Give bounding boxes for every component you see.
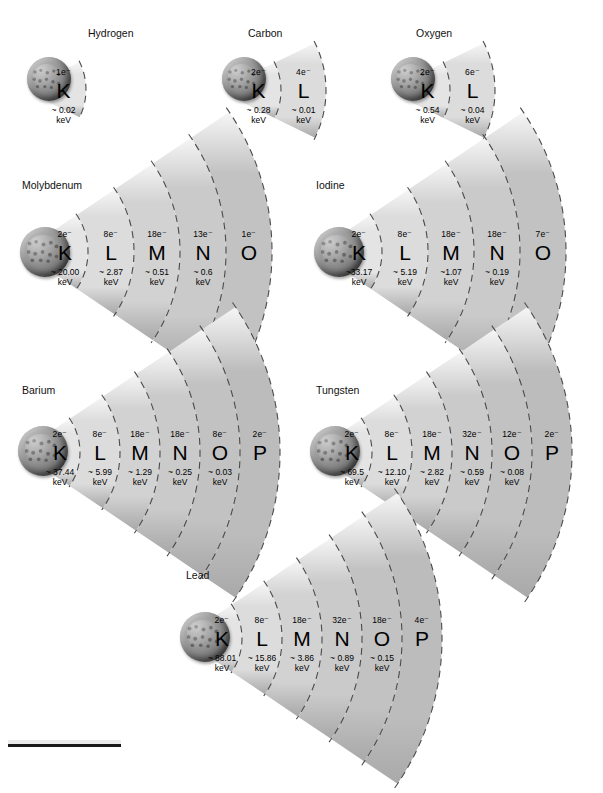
electron-count-K: 2e⁻: [239, 68, 279, 77]
shell-letter-M: M: [282, 628, 322, 649]
shell-letter-M: M: [137, 242, 177, 263]
electron-count-O: 8e⁻: [200, 430, 240, 439]
shell-letter-L: L: [372, 442, 412, 463]
electron-count-N: 18e⁻: [160, 430, 200, 439]
shell-letter-N: N: [477, 242, 517, 263]
electron-count-O: 7e⁻: [523, 230, 563, 239]
electron-count-K: 2e⁻: [40, 430, 80, 439]
shell-letter-L: L: [385, 242, 425, 263]
electron-count-M: 18e⁻: [412, 430, 452, 439]
footer-rule: [8, 744, 121, 747]
electron-count-K: 2e⁻: [408, 68, 448, 77]
shell-letter-O: O: [229, 242, 269, 263]
shell-letter-M: M: [412, 442, 452, 463]
shell-letter-O: O: [492, 442, 532, 463]
electron-count-K: 2e⁻: [202, 616, 242, 625]
electron-count-O: 1e⁻: [229, 230, 269, 239]
electron-count-P: 2e⁻: [240, 430, 280, 439]
shell-letter-O: O: [362, 628, 402, 649]
electron-count-N: 18e⁻: [477, 230, 517, 239]
binding-energy-unit: keV: [358, 664, 406, 674]
electron-count-L: 8e⁻: [385, 230, 425, 239]
electron-count-M: 18e⁻: [137, 230, 177, 239]
shell-letter-K: K: [40, 442, 80, 463]
electron-count-P: 2e⁻: [532, 430, 572, 439]
electron-count-M: 18e⁻: [282, 616, 322, 625]
shell-letter-N: N: [183, 242, 223, 263]
binding-energy-unit: keV: [488, 478, 536, 488]
electron-count-L: 6e⁻: [453, 68, 493, 77]
shell-letter-M: M: [120, 442, 160, 463]
binding-energy-O: ~ 0.15keV: [358, 654, 406, 674]
electron-count-L: 4e⁻: [284, 68, 324, 77]
electron-count-N: 13e⁻: [183, 230, 223, 239]
electron-count-K: 2e⁻: [332, 430, 372, 439]
shell-letter-P: P: [532, 442, 572, 463]
electron-count-K: 2e⁻: [45, 230, 85, 239]
shell-letter-P: P: [402, 628, 442, 649]
shell-letter-O: O: [200, 442, 240, 463]
electron-count-L: 8e⁻: [80, 430, 120, 439]
shell-letter-M: M: [431, 242, 471, 263]
electron-count-M: 18e⁻: [431, 230, 471, 239]
shell-letter-L: L: [242, 628, 282, 649]
shell-letter-K: K: [332, 442, 372, 463]
electron-count-K: 1e⁻: [44, 68, 84, 77]
electron-count-O: 12e⁻: [492, 430, 532, 439]
shell-letter-K: K: [45, 242, 85, 263]
shell-letter-L: L: [91, 242, 131, 263]
electron-count-L: 8e⁻: [242, 616, 282, 625]
electron-count-N: 32e⁻: [322, 616, 362, 625]
electron-count-P: 4e⁻: [402, 616, 442, 625]
electron-count-N: 32e⁻: [452, 430, 492, 439]
electron-count-L: 8e⁻: [372, 430, 412, 439]
shell-letter-P: P: [240, 442, 280, 463]
electron-count-M: 18e⁻: [120, 430, 160, 439]
shell-letter-N: N: [452, 442, 492, 463]
binding-energy-O: ~ 0.08keV: [488, 468, 536, 488]
electron-count-O: 18e⁻: [362, 616, 402, 625]
shell-letter-K: K: [339, 242, 379, 263]
shell-letter-N: N: [160, 442, 200, 463]
shell-letter-O: O: [523, 242, 563, 263]
shell-letter-K: K: [202, 628, 242, 649]
shell-letter-L: L: [80, 442, 120, 463]
shell-letter-N: N: [322, 628, 362, 649]
electron-count-K: 2e⁻: [339, 230, 379, 239]
electron-count-L: 8e⁻: [91, 230, 131, 239]
